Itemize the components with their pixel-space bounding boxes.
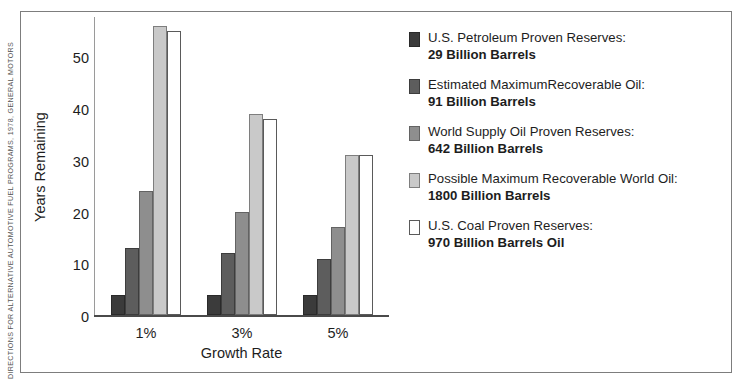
bar[interactable] (111, 295, 125, 316)
y-tick-label: 50 (43, 50, 89, 66)
bar[interactable] (359, 155, 373, 315)
y-axis-tick-labels: 01020304050 (43, 12, 89, 374)
legend-label: U.S. Petroleum Proven Reserves:29 Billio… (428, 30, 626, 63)
legend-item[interactable]: Possible Maximum Recoverable World Oil:1… (409, 171, 727, 204)
y-tick-label: 40 (43, 102, 89, 118)
x-axis-title: Growth Rate (94, 345, 389, 361)
legend-item[interactable]: U.S. Coal Proven Reserves:970 Billion Ba… (409, 218, 727, 251)
legend-label: Estimated MaximumRecoverable Oil:91 Bill… (428, 77, 645, 110)
legend-series-detail: 970 Billion Barrels Oil (428, 235, 593, 252)
legend-swatch (409, 126, 420, 141)
legend-swatch (409, 173, 420, 188)
chart-legend: U.S. Petroleum Proven Reserves:29 Billio… (409, 30, 727, 265)
y-tick-label: 20 (43, 206, 89, 222)
legend-series-detail: 91 Billion Barrels (428, 94, 645, 111)
legend-series-detail: 642 Billion Barrels (428, 141, 634, 158)
plot-area: 1%3%5% (94, 17, 389, 317)
legend-series-detail: 1800 Billion Barrels (428, 188, 678, 205)
bar[interactable] (125, 248, 139, 315)
bar[interactable] (303, 295, 317, 316)
y-tick-label: 0 (43, 309, 89, 325)
bar[interactable] (153, 26, 167, 316)
legend-series-name: Estimated MaximumRecoverable Oil: (428, 77, 645, 92)
bar[interactable] (249, 114, 263, 316)
bar[interactable] (221, 253, 235, 315)
legend-series-name: World Supply Oil Proven Reserves: (428, 124, 634, 139)
legend-label: U.S. Coal Proven Reserves:970 Billion Ba… (428, 218, 593, 251)
bar[interactable] (139, 191, 153, 315)
y-axis-line (94, 17, 95, 317)
legend-item[interactable]: World Supply Oil Proven Reserves:642 Bil… (409, 124, 727, 157)
bar[interactable] (207, 295, 221, 316)
bar[interactable] (235, 212, 249, 315)
legend-swatch (409, 32, 420, 47)
legend-series-detail: 29 Billion Barrels (428, 47, 626, 64)
x-tick-label: 5% (328, 325, 349, 341)
attribution-text: DIRECTIONS FOR ALTERNATIVE AUTOMOTIVE FU… (7, 42, 15, 379)
bar-group-5pct (303, 17, 373, 315)
legend-series-name: U.S. Petroleum Proven Reserves: (428, 30, 626, 45)
legend-label: World Supply Oil Proven Reserves:642 Bil… (428, 124, 634, 157)
legend-series-name: Possible Maximum Recoverable World Oil: (428, 171, 678, 186)
legend-item[interactable]: U.S. Petroleum Proven Reserves:29 Billio… (409, 30, 727, 63)
y-tick-label: 10 (43, 257, 89, 273)
x-tick-label: 1% (136, 325, 157, 341)
bar[interactable] (263, 119, 277, 316)
x-tick-label: 3% (232, 325, 253, 341)
bar[interactable] (167, 31, 181, 315)
bar-group-3pct (207, 17, 277, 315)
legend-swatch (409, 220, 420, 235)
y-tick-label: 30 (43, 154, 89, 170)
plot-region: Years Remaining 01020304050 1%3%5% Growt… (21, 12, 401, 374)
legend-item[interactable]: Estimated MaximumRecoverable Oil:91 Bill… (409, 77, 727, 110)
bar-group-1pct (111, 17, 181, 315)
source-attribution: DIRECTIONS FOR ALTERNATIVE AUTOMOTIVE FU… (0, 0, 22, 385)
x-axis-line (94, 315, 389, 317)
legend-series-name: U.S. Coal Proven Reserves: (428, 218, 593, 233)
bar[interactable] (345, 155, 359, 315)
bar[interactable] (331, 227, 345, 315)
legend-label: Possible Maximum Recoverable World Oil:1… (428, 171, 678, 204)
chart-frame: Years Remaining 01020304050 1%3%5% Growt… (20, 11, 732, 373)
legend-swatch (409, 79, 420, 94)
bar[interactable] (317, 259, 331, 316)
